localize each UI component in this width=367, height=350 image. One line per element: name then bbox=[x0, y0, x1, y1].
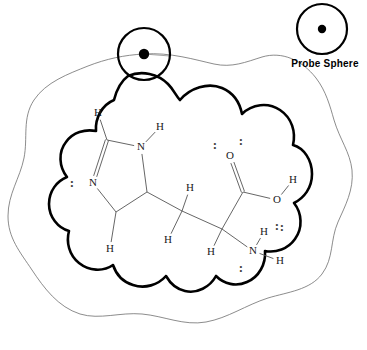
molecular-surface-figure: HNHNHHHHOOHNHH :::::: Probe Sphere bbox=[0, 0, 367, 350]
bond-o-hydroxyl-h-hydroxyl bbox=[281, 185, 288, 194]
lone-pair-lp-n3: : bbox=[70, 175, 74, 190]
lone-pair-lp-o-left: : bbox=[213, 137, 217, 152]
bond-n1-h-n1 bbox=[146, 132, 155, 142]
bond-h-ring-c2-c2 bbox=[100, 120, 107, 140]
bond-ca-c-carboxyl bbox=[222, 192, 243, 229]
bond-c-carboxyl-o-hydroxyl bbox=[243, 192, 270, 198]
figure-canvas: HNHNHHHHOOHNHH :::::: bbox=[0, 0, 367, 350]
bond-c2-n3 bbox=[97, 140, 109, 176]
lone-pair-lp-n-upper: : bbox=[280, 219, 284, 234]
atom-label-o-hydroxyl: O bbox=[273, 193, 281, 205]
bond-c4-c5 bbox=[116, 192, 147, 212]
atom-label-h-hydroxyl: H bbox=[289, 173, 297, 185]
atom-label-h-cb-up: H bbox=[186, 181, 194, 193]
lone-pair-lp-n-amine: : bbox=[239, 260, 243, 275]
atom-label-h-cb-dn: H bbox=[164, 233, 172, 245]
atom-label-o-double: O bbox=[226, 149, 234, 161]
bond-n-amine-h-amine-up bbox=[257, 238, 261, 245]
atom-label-n1: N bbox=[137, 140, 145, 152]
bond-cb-ca bbox=[182, 211, 222, 229]
bond-ca-n-amine bbox=[222, 229, 247, 247]
molecule-atom-labels: HNHNHHHHOOHNHH bbox=[89, 106, 297, 266]
atom-label-h-ca: H bbox=[207, 245, 215, 257]
atom-label-h-amine-rt: H bbox=[276, 254, 284, 266]
atom-label-h-c4: H bbox=[106, 242, 114, 254]
probe-sphere-legend-center-dot bbox=[318, 25, 326, 33]
rolling-probe-sphere-center-dot bbox=[139, 49, 149, 59]
atom-label-n3: N bbox=[89, 176, 97, 188]
atom-label-h-ring-c2: H bbox=[94, 106, 102, 118]
bond-c2-n1 bbox=[107, 140, 134, 146]
bond-n-amine-h-amine-rt bbox=[260, 253, 274, 258]
bond-cb-h-cb-up bbox=[182, 195, 188, 211]
bond-cb-h-cb-dn bbox=[171, 211, 182, 234]
probe-sphere-legend-label: Probe Sphere bbox=[283, 58, 367, 69]
lone-pair-lp-o-hydroxyl: : bbox=[275, 218, 279, 233]
bond-c5-cb bbox=[147, 192, 182, 211]
atom-label-h-amine-up: H bbox=[260, 225, 268, 237]
bond-c4-h-c4 bbox=[111, 212, 116, 242]
bond-c2-n3 bbox=[94, 140, 106, 176]
bond-n3-c4 bbox=[97, 188, 116, 212]
lone-pair-lp-o-top: : bbox=[239, 133, 243, 148]
solvent-accessible-surface-contour bbox=[8, 54, 352, 323]
bond-ca-h-ca bbox=[214, 229, 222, 246]
atom-label-n-amine: N bbox=[249, 244, 257, 256]
bond-c5-n1 bbox=[142, 154, 147, 192]
atom-label-h-n1: H bbox=[156, 120, 164, 132]
